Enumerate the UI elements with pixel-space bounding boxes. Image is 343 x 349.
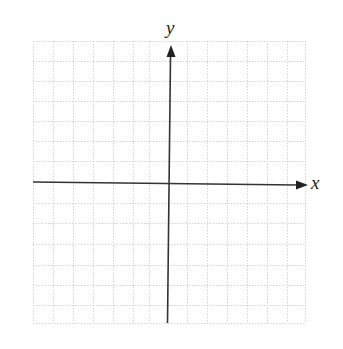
x-axis: [33, 182, 298, 185]
x-axis-arrow-icon: [296, 181, 308, 190]
y-axis-arrow-icon: [167, 45, 176, 57]
coordinate-plane: [0, 0, 343, 349]
x-axis-label: x: [311, 173, 319, 192]
y-axis: [168, 56, 171, 323]
y-axis-label: y: [166, 18, 174, 37]
